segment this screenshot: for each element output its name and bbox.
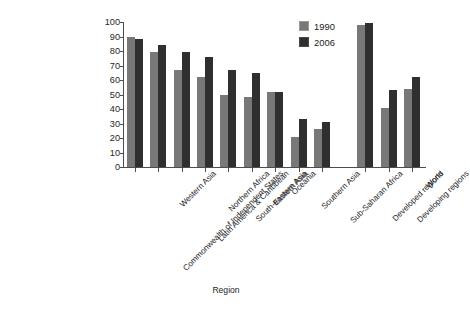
bar-1990-3	[197, 77, 205, 167]
bar-group	[267, 22, 283, 167]
bar-1990-1	[150, 52, 158, 167]
y-axis-tick-label: 40	[94, 104, 120, 114]
y-axis-tick-mark	[120, 37, 124, 38]
bar-group	[381, 22, 397, 167]
y-axis-tick-mark	[120, 66, 124, 67]
bar-1990-9	[357, 25, 365, 167]
bar-1990-7	[291, 137, 299, 167]
y-axis-tick-mark	[120, 153, 124, 154]
y-axis-tick-labels: 0102030405060708090100	[92, 0, 120, 330]
legend-item-2006: 2006	[299, 35, 335, 49]
bar-group	[150, 22, 166, 167]
bar-group	[127, 22, 143, 167]
bar-group	[197, 22, 213, 167]
bar-1990-10	[381, 108, 389, 167]
bar-1990-8	[314, 129, 322, 167]
y-axis-tick-mark	[120, 109, 124, 110]
y-axis-tick-mark	[120, 138, 124, 139]
bar-2006-2	[182, 52, 190, 167]
x-axis-category-label: Western Asia	[178, 169, 218, 209]
y-axis-tick-label: 90	[94, 32, 120, 42]
y-axis-tick-label: 20	[94, 133, 120, 143]
x-axis-category-label: World	[424, 169, 445, 190]
legend-swatch-1990-icon	[299, 21, 309, 31]
bar-group	[244, 22, 260, 167]
y-axis-tick-mark	[120, 124, 124, 125]
bar-2006-3	[205, 57, 213, 167]
bar-2006-10	[389, 90, 397, 167]
bar-1990-2	[174, 70, 182, 167]
legend-swatch-2006-icon	[299, 37, 309, 47]
x-axis-category-label: Southern Asia	[319, 169, 361, 211]
bar-2006-7	[299, 119, 307, 167]
y-axis-tick-label: 30	[94, 119, 120, 129]
y-axis-tick-label: 10	[94, 148, 120, 158]
y-axis-tick-label: 70	[94, 61, 120, 71]
y-axis-tick-label: 100	[94, 17, 120, 27]
x-axis-title: Region	[0, 285, 452, 295]
y-axis-tick-label: 50	[94, 90, 120, 100]
bar-2006-8	[322, 122, 330, 167]
y-axis-tick-mark	[120, 80, 124, 81]
bar-2006-0	[135, 39, 143, 167]
y-axis-tick-mark	[120, 167, 124, 168]
y-axis-tick-mark	[120, 51, 124, 52]
y-axis-tick-label: 80	[94, 46, 120, 56]
y-axis-tick-label: 60	[94, 75, 120, 85]
x-axis-category-labels: Commonwealth of Independent StatesWester…	[124, 169, 454, 299]
bar-1990-6	[267, 92, 275, 167]
bar-1990-0	[127, 37, 135, 168]
bar-group	[174, 22, 190, 167]
bar-2006-6	[275, 92, 283, 167]
bar-2006-4	[228, 70, 236, 167]
plot-area	[124, 22, 426, 167]
bar-1990-11	[404, 89, 412, 167]
legend-label-2006: 2006	[314, 37, 335, 48]
y-axis-tick-mark	[120, 95, 124, 96]
bar-group	[404, 22, 420, 167]
bar-1990-5	[244, 97, 252, 167]
legend: 1990 2006	[299, 19, 335, 51]
bar-2006-11	[412, 77, 420, 167]
y-axis-tick-mark	[120, 22, 124, 23]
bar-2006-5	[252, 73, 260, 167]
legend-label-1990: 1990	[314, 21, 335, 32]
bar-group	[220, 22, 236, 167]
bar-group	[357, 22, 373, 167]
legend-item-1990: 1990	[299, 19, 335, 33]
bar-2006-1	[158, 45, 166, 167]
y-axis-tick-label: 0	[94, 162, 120, 172]
bar-2006-9	[365, 23, 373, 167]
bar-1990-4	[220, 95, 228, 168]
